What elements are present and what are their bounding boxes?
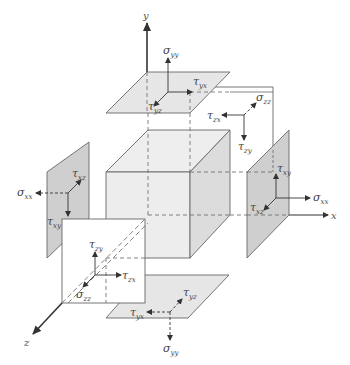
z-axis (33, 303, 62, 334)
sigma-yy-bottom-label: σyy (163, 342, 179, 357)
x-axis-label: x (331, 210, 337, 221)
z-axis-label: z (23, 337, 30, 348)
top-y-plane (106, 58, 273, 113)
sigma-yy-top-label: σyy (163, 44, 179, 59)
sigma-zz-back-label: σzz (256, 91, 271, 106)
sigma-xx-left-label: σxx (17, 186, 32, 201)
y-axis-label: y (142, 10, 149, 21)
front-z-plane (62, 219, 148, 303)
right-x-plane (247, 130, 310, 258)
stress-element-diagram: y x z σyy τyx τyz σzz τzx τzy τxy σxx τx… (0, 0, 350, 365)
tau-zy-back-label: τzy (238, 140, 253, 155)
sigma-xx-right-label: σxx (313, 191, 328, 206)
sigma-zz-back-arrow (244, 103, 256, 115)
tau-zx-back-label: τzx (207, 109, 221, 124)
